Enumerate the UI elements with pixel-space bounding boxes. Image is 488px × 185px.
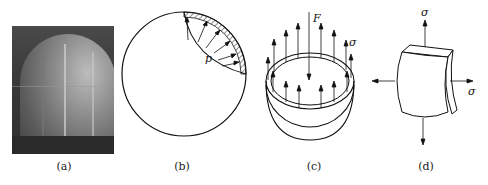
- stress-right-label: σ: [468, 85, 476, 98]
- panel-b: p (b): [110, 0, 250, 185]
- caption-d: (d): [414, 160, 438, 173]
- caption-a: (a): [52, 160, 76, 173]
- shell-element-diagram: σ σ: [370, 0, 488, 185]
- stress-label: σ: [349, 36, 357, 49]
- storage-sphere-photo: [12, 26, 114, 154]
- force-label: F: [312, 12, 321, 25]
- hemisphere-free-body: F σ: [250, 0, 380, 185]
- caption-c: (c): [302, 160, 326, 173]
- stress-top-label: σ: [421, 6, 429, 19]
- pressure-label: p: [205, 52, 212, 65]
- panel-c: F σ (c): [250, 0, 380, 185]
- sphere-pressure-diagram: p: [110, 0, 250, 185]
- panel-d: σ σ (d): [370, 0, 488, 185]
- panel-a: (a): [0, 0, 122, 185]
- caption-b: (b): [170, 160, 194, 173]
